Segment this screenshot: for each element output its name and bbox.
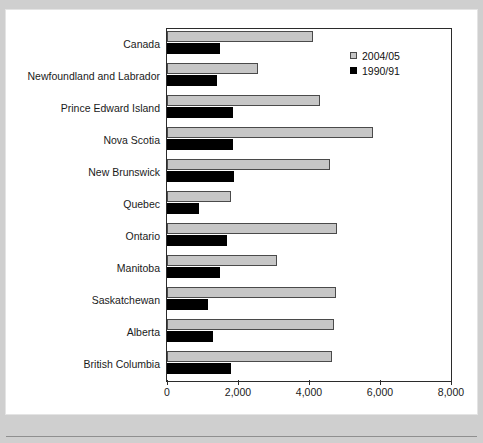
- legend-swatch-black-icon: [350, 67, 357, 74]
- bar-series-1990-91: [167, 331, 213, 342]
- footer-divider: [6, 436, 477, 437]
- bar-row: Nova Scotia: [6, 124, 450, 156]
- bar-series-2004-05: [167, 351, 332, 362]
- bar-row: British Columbia: [6, 348, 450, 380]
- bar-row: Prince Edward Island: [6, 92, 450, 124]
- category-label: Nova Scotia: [0, 134, 160, 146]
- x-axis-tick: [380, 380, 381, 385]
- x-axis-tick: [167, 380, 168, 385]
- bar-series-1990-91: [167, 363, 231, 374]
- category-label: Newfoundland and Labrador: [0, 70, 160, 82]
- bar-series-2004-05: [167, 319, 334, 330]
- bar-series-2004-05: [167, 95, 320, 106]
- category-label: Saskatchewan: [0, 294, 160, 306]
- bar-series-1990-91: [167, 171, 234, 182]
- bar-row: Saskatchewan: [6, 284, 450, 316]
- category-label: Manitoba: [0, 262, 160, 274]
- x-axis-tick-label: 6,000: [367, 386, 393, 398]
- bar-series-2004-05: [167, 159, 330, 170]
- bar-series-1990-91: [167, 75, 217, 86]
- bar-series-2004-05: [167, 63, 258, 74]
- x-axis-tick: [451, 380, 452, 385]
- bar-series-1990-91: [167, 43, 220, 54]
- legend-label-2004-05: 2004/05: [362, 50, 400, 62]
- bar-rows: CanadaNewfoundland and LabradorPrince Ed…: [6, 28, 450, 380]
- bar-series-2004-05: [167, 31, 313, 42]
- bar-series-1990-91: [167, 107, 233, 118]
- document-page: CanadaNewfoundland and LabradorPrince Ed…: [6, 10, 477, 414]
- legend-item-1990-91: 1990/91: [350, 63, 400, 78]
- legend-label-1990-91: 1990/91: [362, 65, 400, 77]
- x-axis-tick: [309, 380, 310, 385]
- category-label: Canada: [0, 38, 160, 50]
- x-axis-tick-label: 2,000: [225, 386, 251, 398]
- bar-series-1990-91: [167, 203, 199, 214]
- legend-item-2004-05: 2004/05: [350, 48, 400, 63]
- x-axis-tick: [238, 380, 239, 385]
- category-label: Ontario: [0, 230, 160, 242]
- bar-series-2004-05: [167, 223, 337, 234]
- category-label: Alberta: [0, 326, 160, 338]
- bar-series-1990-91: [167, 267, 220, 278]
- bar-series-1990-91: [167, 299, 208, 310]
- category-label: Prince Edward Island: [0, 102, 160, 114]
- bar-row: Quebec: [6, 188, 450, 220]
- x-axis-tick-label: 8,000: [438, 386, 464, 398]
- bar-row: Ontario: [6, 220, 450, 252]
- bar-series-2004-05: [167, 255, 277, 266]
- category-label: New Brunswick: [0, 166, 160, 178]
- grouped-bar-chart: CanadaNewfoundland and LabradorPrince Ed…: [6, 10, 477, 414]
- chart-legend: 2004/05 1990/91: [350, 48, 400, 78]
- bar-series-1990-91: [167, 235, 227, 246]
- bar-series-2004-05: [167, 287, 336, 298]
- bar-series-2004-05: [167, 191, 231, 202]
- x-axis: 02,0004,0006,0008,000: [166, 380, 452, 410]
- category-label: British Columbia: [0, 358, 160, 370]
- bar-series-2004-05: [167, 127, 373, 138]
- x-axis-tick-label: 0: [164, 386, 170, 398]
- legend-swatch-gray-icon: [350, 52, 357, 59]
- category-label: Quebec: [0, 198, 160, 210]
- bar-series-1990-91: [167, 139, 233, 150]
- x-axis-tick-label: 4,000: [296, 386, 322, 398]
- bar-row: New Brunswick: [6, 156, 450, 188]
- bar-row: Alberta: [6, 316, 450, 348]
- bar-row: Manitoba: [6, 252, 450, 284]
